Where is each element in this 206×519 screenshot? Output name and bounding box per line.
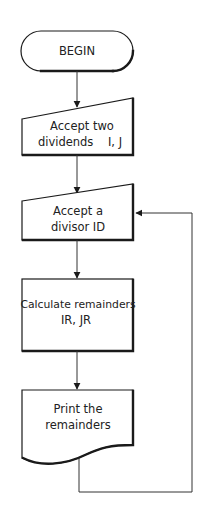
- accept-dividends-label-1: Accept two: [50, 119, 114, 133]
- calculate-label-1: Calculate remainders: [20, 298, 136, 311]
- begin-terminator: BEGIN: [21, 31, 133, 71]
- calculate-label-2: IR, JR: [61, 313, 91, 327]
- accept-divisor-label-1: Accept a: [53, 204, 103, 218]
- print-label-2: remainders: [45, 418, 110, 432]
- accept-divisor-label-2: divisor ID: [51, 220, 105, 234]
- print-label-1: Print the: [54, 402, 103, 416]
- accept-dividends-label-2: dividends I, J: [38, 135, 122, 149]
- accept-divisor-input: Accept a divisor ID: [22, 184, 133, 240]
- begin-label: BEGIN: [59, 44, 95, 58]
- flowchart: BEGIN Accept two dividends I, J Accept a…: [0, 0, 206, 519]
- print-document: Print the remainders: [22, 390, 133, 464]
- calculate-process: Calculate remainders IR, JR: [20, 279, 136, 351]
